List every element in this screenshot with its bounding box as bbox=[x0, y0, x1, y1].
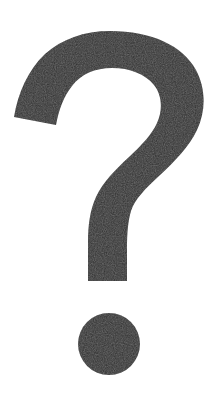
question-mark-illustration: ? bbox=[0, 0, 222, 395]
question-mark-icon bbox=[0, 0, 222, 395]
question-mark-dot-shape bbox=[78, 313, 140, 375]
question-mark-hook-shape bbox=[14, 31, 204, 281]
